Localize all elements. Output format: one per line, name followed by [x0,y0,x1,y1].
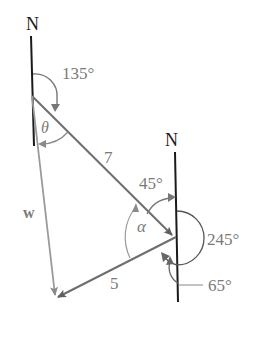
arc-135 [33,74,57,108]
arc-45 [147,198,170,214]
label-side-w: w [23,204,35,221]
left-north-reference: N [26,14,39,146]
label-135: 135° [62,64,94,83]
left-north-label: N [26,14,39,34]
label-45: 45° [139,174,163,193]
arc-alpha [125,208,135,258]
bearing-vector-diagram: N N 135° θ 7 5 w 45° α 245° 65° [0,0,255,344]
label-65: 65° [208,276,232,295]
label-alpha: α [137,217,147,236]
right-north-label: N [165,130,178,150]
label-side-7: 7 [104,148,113,167]
left-north-line [31,36,34,146]
arc-theta-arrowhead [38,140,46,148]
arc-135-arrowhead [51,104,60,112]
vector-7 [32,96,172,235]
arc-alpha-arrowhead [132,203,139,212]
label-245: 245° [207,230,239,249]
arc-245 [165,211,204,265]
right-north-line [175,152,178,302]
arc-45-arrowhead [168,193,176,202]
label-side-5: 5 [110,274,119,293]
label-theta: θ [41,119,49,136]
